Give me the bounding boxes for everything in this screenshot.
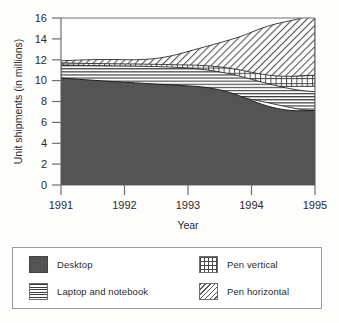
solid-fill-swatch-icon <box>29 256 48 273</box>
chart-page: 0 2 4 6 8 10 12 14 16 1991 1992 1993 199… <box>0 0 339 323</box>
stacked-area-chart: 0 2 4 6 8 10 12 14 16 1991 1992 1993 199… <box>0 0 339 238</box>
y-axis-ticks <box>52 18 61 185</box>
legend-label-desktop: Desktop <box>57 259 93 270</box>
legend-item-desktop: Desktop <box>29 256 93 273</box>
x-tick-label-1995: 1995 <box>303 199 327 211</box>
y-tick-label-2: 2 <box>41 158 47 170</box>
y-tick-label-0: 0 <box>41 179 47 191</box>
legend-label-laptop-and-notebook: Laptop and notebook <box>57 286 148 297</box>
legend-item-pen-horizontal: Pen horizontal <box>199 283 289 300</box>
y-tick-label-10: 10 <box>35 74 47 86</box>
chart-svg: 0 2 4 6 8 10 12 14 16 1991 1992 1993 199… <box>0 0 339 238</box>
y-tick-label-12: 12 <box>35 54 47 66</box>
y-axis-title: Unit shipments (in millions) <box>12 39 24 164</box>
y-tick-label-8: 8 <box>41 95 47 107</box>
horizontal-lines-swatch-icon <box>29 283 48 300</box>
x-tick-label-1994: 1994 <box>239 199 263 211</box>
x-tick-label-1993: 1993 <box>176 199 200 211</box>
diagonal-hatch-swatch-icon <box>199 283 218 300</box>
x-tick-label-1991: 1991 <box>49 199 73 211</box>
x-tick-label-1992: 1992 <box>112 199 136 211</box>
y-tick-label-4: 4 <box>41 137 47 149</box>
x-axis-ticks <box>61 185 315 195</box>
y-tick-label-16: 16 <box>35 12 47 24</box>
legend-label-pen-horizontal: Pen horizontal <box>227 286 289 297</box>
legend-label-pen-vertical: Pen vertical <box>227 259 278 270</box>
chart-legend: Desktop Pen vertical Laptop and notebook… <box>12 247 322 309</box>
y-tick-label-6: 6 <box>41 116 47 128</box>
y-tick-label-14: 14 <box>35 33 47 45</box>
x-axis-title: Year <box>177 219 199 231</box>
grid-crosshatch-swatch-icon <box>199 256 218 273</box>
legend-item-pen-vertical: Pen vertical <box>199 256 278 273</box>
legend-item-laptop-and-notebook: Laptop and notebook <box>29 283 148 300</box>
